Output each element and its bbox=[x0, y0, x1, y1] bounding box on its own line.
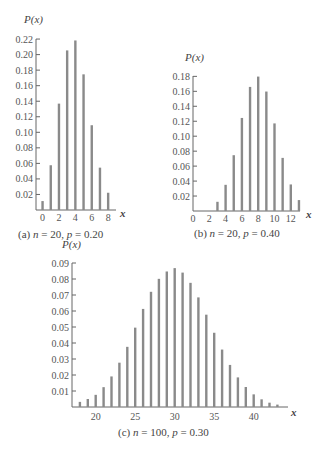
x-tick-label: 40 bbox=[249, 411, 259, 422]
bar bbox=[273, 123, 275, 211]
bar bbox=[205, 315, 207, 407]
bar bbox=[221, 350, 223, 407]
bar bbox=[298, 200, 300, 211]
y-tick-label: 0.10 bbox=[173, 131, 191, 142]
bar bbox=[82, 74, 84, 210]
bar bbox=[74, 40, 76, 210]
y-axis-label: P(x) bbox=[23, 13, 43, 26]
x-tick-label: 8 bbox=[256, 213, 261, 224]
bar bbox=[276, 405, 278, 407]
chart-c-n100-p030: 0.010.020.030.040.050.060.070.080.092025… bbox=[52, 238, 298, 439]
bar bbox=[197, 297, 199, 407]
bar bbox=[224, 185, 226, 211]
y-tick-label: 0.05 bbox=[52, 322, 70, 333]
bar bbox=[237, 377, 239, 407]
bar bbox=[118, 363, 120, 407]
bar bbox=[229, 365, 231, 407]
x-tick-label: 8 bbox=[106, 212, 111, 223]
bar bbox=[241, 118, 243, 211]
bar bbox=[58, 104, 60, 210]
bar bbox=[95, 395, 97, 407]
y-tick-label: 0.02 bbox=[16, 189, 34, 200]
x-tick-label: 6 bbox=[89, 212, 94, 223]
y-tick-label: 0.03 bbox=[52, 354, 70, 365]
bar bbox=[99, 168, 101, 210]
chart-caption: (c) n = 100, p = 0.30 bbox=[118, 426, 209, 439]
y-tick-label: 0.01 bbox=[52, 386, 70, 397]
y-axis-label: P(x) bbox=[61, 238, 81, 251]
x-axis-label: x bbox=[119, 207, 126, 219]
bar bbox=[50, 165, 52, 210]
chart-caption: (a) n = 20, p = 0.20 bbox=[18, 228, 104, 241]
x-tick-label: 4 bbox=[73, 212, 78, 223]
bar bbox=[126, 347, 128, 407]
bar bbox=[216, 202, 218, 211]
x-tick-label: 20 bbox=[91, 411, 101, 422]
x-tick-label: 25 bbox=[130, 411, 140, 422]
bar bbox=[213, 333, 215, 407]
bar bbox=[281, 158, 283, 211]
chart-b-n20-p040: 0.020.040.060.080.100.120.140.160.180246… bbox=[173, 51, 313, 240]
y-tick-label: 0.02 bbox=[52, 370, 70, 381]
x-tick-label: 10 bbox=[270, 213, 280, 224]
bar bbox=[87, 399, 89, 407]
x-tick-label: 0 bbox=[40, 212, 45, 223]
x-tick-label: 6 bbox=[239, 213, 244, 224]
bar bbox=[253, 394, 255, 407]
bar bbox=[142, 309, 144, 407]
y-tick-label: 0.10 bbox=[16, 127, 34, 138]
chart-a-n20-p020: 0.020.040.060.080.100.120.140.160.180.20… bbox=[16, 13, 127, 241]
bar bbox=[189, 283, 191, 407]
bar bbox=[174, 268, 176, 407]
y-tick-label: 0.06 bbox=[16, 158, 34, 169]
bar bbox=[158, 279, 160, 407]
bar bbox=[102, 387, 104, 407]
bar bbox=[41, 201, 43, 210]
y-tick-label: 0.08 bbox=[16, 142, 34, 153]
x-axis-label: x bbox=[305, 208, 312, 220]
y-tick-label: 0.06 bbox=[173, 161, 191, 172]
bar bbox=[150, 292, 152, 407]
y-tick-label: 0.06 bbox=[52, 306, 70, 317]
bar bbox=[260, 399, 262, 407]
bar bbox=[107, 193, 109, 210]
chart-caption: (b) n = 20, p = 0.40 bbox=[194, 227, 280, 240]
y-tick-label: 0.18 bbox=[173, 71, 191, 82]
y-tick-label: 0.18 bbox=[16, 65, 34, 76]
bar bbox=[257, 77, 259, 211]
bar bbox=[181, 273, 183, 407]
y-tick-label: 0.07 bbox=[52, 290, 70, 301]
y-tick-label: 0.14 bbox=[173, 101, 191, 112]
bar bbox=[245, 387, 247, 407]
y-tick-label: 0.12 bbox=[16, 111, 34, 122]
y-tick-label: 0.04 bbox=[173, 176, 191, 187]
y-tick-label: 0.08 bbox=[173, 146, 191, 157]
y-axis-label: P(x) bbox=[184, 51, 204, 64]
y-tick-label: 0.14 bbox=[16, 96, 34, 107]
x-tick-label: 4 bbox=[223, 213, 228, 224]
y-tick-label: 0.09 bbox=[52, 258, 70, 269]
bar bbox=[233, 155, 235, 211]
bar bbox=[268, 403, 270, 407]
y-tick-label: 0.04 bbox=[16, 173, 34, 184]
bar bbox=[166, 271, 168, 407]
bar bbox=[290, 184, 292, 211]
y-tick-label: 0.12 bbox=[173, 116, 191, 127]
bar bbox=[110, 376, 112, 407]
x-axis-label: x bbox=[290, 406, 297, 418]
bar bbox=[91, 125, 93, 210]
bar bbox=[134, 328, 136, 407]
bar bbox=[66, 50, 68, 210]
y-tick-label: 0.16 bbox=[173, 86, 191, 97]
y-tick-label: 0.16 bbox=[16, 80, 34, 91]
bar bbox=[265, 92, 267, 211]
y-tick-label: 0.08 bbox=[52, 274, 70, 285]
bar bbox=[249, 87, 251, 211]
x-tick-label: 0 bbox=[191, 213, 196, 224]
y-tick-label: 0.22 bbox=[16, 34, 34, 45]
x-tick-label: 30 bbox=[170, 411, 180, 422]
figure-canvas: 0.020.040.060.080.100.120.140.160.180.20… bbox=[0, 0, 327, 452]
x-tick-label: 2 bbox=[56, 212, 61, 223]
x-tick-label: 35 bbox=[209, 411, 219, 422]
y-tick-label: 0.02 bbox=[173, 191, 191, 202]
